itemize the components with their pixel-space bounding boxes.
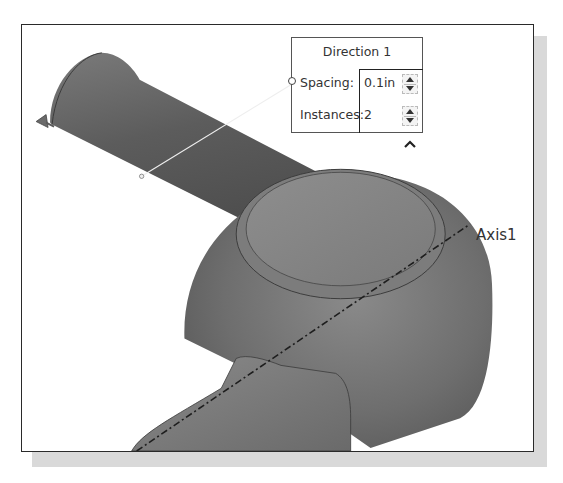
instances-label: Instances:: [300, 107, 364, 122]
spinner-down-icon[interactable]: [406, 118, 414, 123]
spacing-value-input[interactable]: 0.1in: [364, 75, 395, 90]
instances-spinner[interactable]: [402, 106, 418, 126]
model-viewport[interactable]: [22, 25, 533, 451]
leader-anchor-point[interactable]: [139, 174, 143, 178]
graphics-viewport-frame: Direction 1 Spacing: Instances: 0.1in 2 …: [21, 24, 534, 452]
collapse-chevron-up-icon[interactable]: [403, 139, 417, 149]
spacing-label: Spacing:: [300, 75, 354, 90]
spinner-up-icon[interactable]: [406, 109, 414, 114]
spinner-divider: [404, 84, 416, 85]
leader-handle-icon[interactable]: [287, 76, 297, 86]
spinner-up-icon[interactable]: [406, 77, 414, 82]
instances-value-input[interactable]: 2: [364, 107, 372, 122]
spacing-spinner[interactable]: [402, 74, 418, 94]
dialog-title: Direction 1: [292, 44, 422, 59]
linear-pattern-dialog: Direction 1 Spacing: Instances: 0.1in 2: [291, 37, 423, 133]
axis1-label: Axis1: [476, 226, 517, 244]
spinner-divider: [404, 116, 416, 117]
spinner-down-icon[interactable]: [406, 86, 414, 91]
handle-extension[interactable]: [132, 357, 351, 451]
